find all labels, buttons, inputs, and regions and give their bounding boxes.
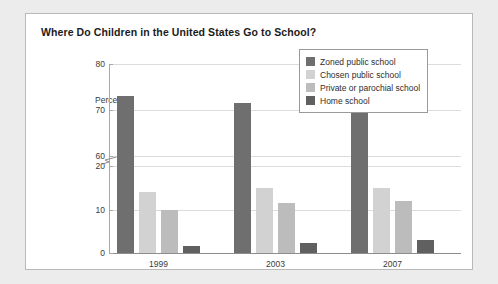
legend-swatch-icon — [306, 83, 315, 92]
gridline — [109, 166, 461, 167]
bar — [300, 243, 317, 253]
legend-label: Chosen public school — [320, 70, 401, 80]
legend-swatch-icon — [306, 70, 315, 79]
chart-card: Where Do Children in the United States G… — [25, 13, 473, 270]
x-tick-label: 1999 — [149, 259, 168, 269]
axis-break-icon — [102, 155, 117, 168]
legend-label: Zoned public school — [320, 57, 396, 67]
gridline — [109, 156, 461, 157]
legend-label: Home school — [320, 96, 370, 106]
legend-item: Home school — [306, 94, 420, 107]
legend-item: Chosen public school — [306, 68, 420, 81]
tick-mark — [109, 253, 113, 254]
bar — [117, 96, 134, 253]
legend-swatch-icon — [306, 96, 315, 105]
y-tick-label: 70 — [84, 105, 105, 115]
x-tick-label: 2007 — [383, 259, 402, 269]
bar — [395, 201, 412, 253]
y-tick-label: 10 — [84, 205, 105, 215]
bar — [139, 192, 156, 253]
x-axis-line — [109, 253, 461, 254]
legend-item: Zoned public school — [306, 55, 420, 68]
legend-label: Private or parochial school — [320, 83, 420, 93]
legend-swatch-icon — [306, 57, 315, 66]
bar — [183, 246, 200, 253]
chart-legend: Zoned public schoolChosen public schoolP… — [299, 49, 428, 113]
bar — [234, 103, 251, 253]
bar — [278, 203, 295, 253]
bar — [417, 240, 434, 253]
y-tick-label: 0 — [84, 248, 105, 258]
x-tick-label: 2003 — [266, 259, 285, 269]
tick-mark — [109, 110, 113, 111]
bar — [256, 188, 273, 253]
bar — [373, 188, 390, 253]
bar — [351, 108, 368, 253]
legend-item: Private or parochial school — [306, 81, 420, 94]
bar — [161, 210, 178, 254]
tick-mark — [109, 210, 113, 211]
tick-mark — [109, 64, 113, 65]
y-tick-label: 80 — [84, 59, 105, 69]
page-title: Where Do Children in the United States G… — [41, 26, 316, 38]
